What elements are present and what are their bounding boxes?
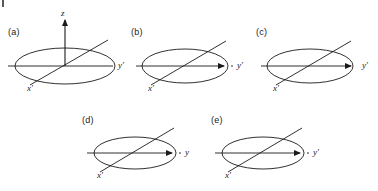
panel-e-caption: (e)	[211, 115, 223, 125]
panel-d-x-axis	[100, 128, 174, 172]
panel-a-x-axis-label: x′	[27, 83, 33, 93]
panel-a-x-axis	[30, 40, 108, 85]
coordinate-systems-diagram	[0, 0, 378, 191]
panel-d-y-axis-label: y	[185, 147, 189, 157]
panels-group	[8, 20, 358, 172]
panel-a	[8, 20, 115, 85]
panel-c-y-axis-label: y′	[362, 60, 368, 70]
panel-a-z-axis-label: z	[61, 8, 65, 18]
panel-c-x-axis-label: x′	[273, 83, 279, 93]
panel-e-y-axis-label: y′	[313, 147, 319, 157]
panel-b-caption: (b)	[131, 27, 143, 37]
panel-a-y-axis-label: y′	[118, 60, 124, 70]
panel-c-caption: (c)	[256, 27, 267, 37]
panel-a-caption: (a)	[8, 27, 20, 37]
panel-d-caption: (d)	[82, 115, 94, 125]
panel-e-x-axis	[228, 128, 302, 172]
panel-c	[261, 41, 358, 85]
panel-d	[87, 128, 181, 172]
panel-b-x-axis-label: x′	[148, 83, 154, 93]
panel-b-y-axis-label: y′	[237, 60, 243, 70]
panel-d-x-axis-label: x′	[97, 170, 103, 180]
panel-b	[136, 41, 233, 85]
panel-e	[215, 128, 309, 172]
panel-e-x-axis-label: x′	[225, 170, 231, 180]
